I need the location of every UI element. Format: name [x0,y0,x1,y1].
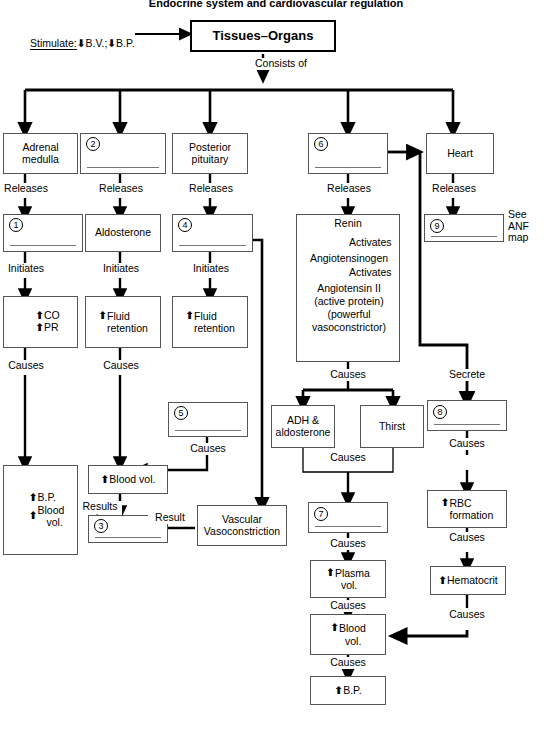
renin-label: Renin [297,218,399,230]
angiotensin-ii-note-1: (active protein) [297,296,401,308]
edge-label-initiates-2: Initiates [95,263,147,275]
node-effect-8[interactable]: 8 [427,400,507,431]
node-plasma-vol[interactable]: ⬆ Plasmavol. [310,560,386,598]
answer-line[interactable] [434,424,500,425]
see-anf-map-note: See ANF map [508,209,552,244]
node-rbc-formation[interactable]: ⬆ RBCformation [427,490,507,528]
up-arrow-icon: ⬆ [326,567,335,579]
node-bp-bloodvol[interactable]: ⬆B.P. ⬆Bloodvol. [3,465,78,555]
answer-line[interactable] [315,167,381,168]
edge-label-causes-rbc: Causes [441,532,493,544]
number-badge-3: 3 [94,519,108,533]
number-badge-4: 4 [178,218,192,232]
node-hormone-1[interactable]: 1 [3,214,83,252]
number-badge-2: 2 [86,137,100,151]
angiotensinogen-label: Angiotensinogen [297,253,401,265]
tissues-organs-box[interactable]: Tissues–Organs [190,20,336,52]
node-fluid-retention-b[interactable]: ⬆ Fluidretention [172,296,248,348]
node-effect-7[interactable]: 7 [308,502,388,533]
edge-label-causes-3: Causes [322,369,374,381]
edge-label-releases-5: Releases [428,183,480,195]
number-badge-9: 9 [430,219,444,233]
node-vascular-vasoconstriction[interactable]: Vascular Vasoconstriction [197,505,287,546]
node-adrenal-medulla[interactable]: Adrenal medulla [3,133,78,174]
up-arrow-icon: ⬆ [35,322,44,334]
node-blood-vol-bottom[interactable]: ⬆ Bloodvol. [310,614,386,655]
up-arrow-icon: ⬆ [29,510,38,522]
node-effect-5[interactable]: 5 [168,402,248,437]
down-arrow-icon: ⬇ [77,37,86,49]
diagram-canvas: Endocrine system and cardiovascular regu… [0,0,552,729]
answer-line[interactable] [315,526,381,527]
node-hematocrit[interactable]: ⬆Hematocrit [430,566,506,595]
node-gland-2[interactable]: 2 [80,133,166,174]
node-hormone-9[interactable]: 9 [424,214,504,242]
number-badge-8: 8 [433,405,447,419]
node-posterior-pituitary[interactable]: Posterior pituitary [172,133,248,174]
edge-label-initiates-1: Initiates [0,263,52,275]
answer-line[interactable] [431,236,497,237]
answer-line[interactable] [175,430,241,431]
pr-row: ⬆PR [35,322,58,334]
edge-label-causes-plasma: Causes [322,600,374,612]
answer-line[interactable] [87,167,159,168]
edge-label-causes-hematocrit: Causes [441,609,493,621]
up-arrow-icon: ⬆ [185,310,194,322]
edge-label-releases-3: Releases [185,183,237,195]
up-arrow-icon: ⬆ [29,492,38,504]
node-adh-aldosterone[interactable]: ADH & aldosterone [271,405,335,448]
node-gland-6[interactable]: 6 [308,133,388,174]
edge-label-releases-2: Releases [95,183,147,195]
stimulate-label: Stimulate:⬇B.V.;⬇B.P. [30,26,135,49]
down-arrow-icon: ⬇ [107,37,116,49]
edge-label-causes-adh-thirst: Causes [322,452,374,464]
edge-label-causes-2: Causes [95,360,147,372]
up-arrow-icon: ⬆ [98,310,107,322]
number-badge-6: 6 [314,137,328,151]
up-arrow-icon: ⬆ [101,474,110,486]
node-heart[interactable]: Heart [426,133,494,174]
angiotensin-ii-note-3: vasoconstrictor) [297,322,401,334]
node-co-pr[interactable]: ⬆CO ⬆PR [3,296,78,348]
up-arrow-icon: ⬆ [438,575,447,587]
number-badge-7: 7 [314,507,328,521]
number-badge-5: 5 [174,406,188,420]
node-thirst[interactable]: Thirst [360,405,424,448]
number-badge-1: 1 [9,218,23,232]
edge-label-activates-2: Activates [349,267,392,279]
edge-label-activates-1: Activates [349,237,392,249]
edge-label-causes-8: Causes [441,438,493,450]
edge-label-causes-7: Causes [322,538,374,550]
answer-line[interactable] [10,245,76,246]
node-hormone-4[interactable]: 4 [172,214,253,252]
up-arrow-icon: ⬆ [334,685,343,697]
node-blood-vol-left[interactable]: ⬆Blood vol. [88,465,168,494]
edge-label-initiates-3: Initiates [185,263,237,275]
angiotensin-ii-note-2: (powerful [297,309,401,321]
bloodvol-row: ⬆Bloodvol. [29,504,65,528]
edge-label-consists-of: Consists of [226,58,336,70]
answer-line[interactable] [95,537,161,538]
edge-label-secrete: Secrete [441,369,493,381]
edge-label-releases-1: Releases [0,183,52,195]
edge-label-releases-4: Releases [323,183,375,195]
edge-label-causes-bloodvol: Causes [322,657,374,669]
node-renin-cascade[interactable]: Renin Activates Angiotensinogen Activate… [296,214,400,362]
node-fluid-retention-a[interactable]: ⬆ Fluidretention [85,296,161,348]
up-arrow-icon: ⬆ [330,622,339,634]
node-aldosterone[interactable]: Aldosterone [85,214,161,252]
angiotensin-ii-label: Angiotensin II [297,283,401,295]
page-title: Endocrine system and cardiovascular regu… [0,0,552,9]
up-arrow-icon: ⬆ [441,497,450,509]
edge-label-causes-1: Causes [0,360,52,372]
edge-label-causes-5: Causes [182,443,234,455]
bp-row: ⬆B.P. [29,492,56,504]
node-bp-bottom[interactable]: ⬆B.P. [310,676,386,705]
edge-label-result: Result [148,512,192,524]
answer-line[interactable] [179,245,246,246]
